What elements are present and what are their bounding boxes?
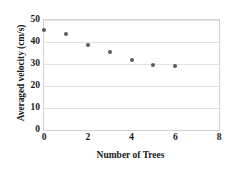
data-point-marker — [64, 32, 68, 36]
gridline-horizontal — [44, 20, 219, 21]
data-point-marker — [86, 43, 90, 47]
x-axis-label: Number of Trees — [43, 150, 218, 160]
gridline-horizontal — [44, 64, 219, 65]
x-axis-tick-label: 4 — [122, 133, 142, 143]
x-axis-tick-label: 2 — [78, 133, 98, 143]
x-axis-tick-label: 6 — [165, 133, 185, 143]
data-point-marker — [108, 50, 112, 54]
data-point-marker — [42, 28, 46, 32]
data-point-marker — [173, 64, 177, 68]
gridline-horizontal — [44, 42, 219, 43]
x-axis-tick-label: 0 — [34, 133, 54, 143]
chart-figure: Averaged velocity (cm/s) 010203040500246… — [0, 0, 234, 172]
gridline-horizontal — [44, 86, 219, 87]
data-point-marker — [130, 58, 134, 62]
gridline-horizontal — [44, 108, 219, 109]
y-axis-tick-label: 30 — [0, 59, 40, 69]
y-axis-tick-label: 50 — [0, 15, 40, 25]
x-axis-tick-label: 8 — [209, 133, 229, 143]
data-point-marker — [151, 63, 155, 67]
y-axis-tick-label: 20 — [0, 81, 40, 91]
y-axis-tick-label: 40 — [0, 37, 40, 47]
plot-area: 0102030405002468 — [43, 19, 220, 131]
y-axis-tick-label: 10 — [0, 103, 40, 113]
